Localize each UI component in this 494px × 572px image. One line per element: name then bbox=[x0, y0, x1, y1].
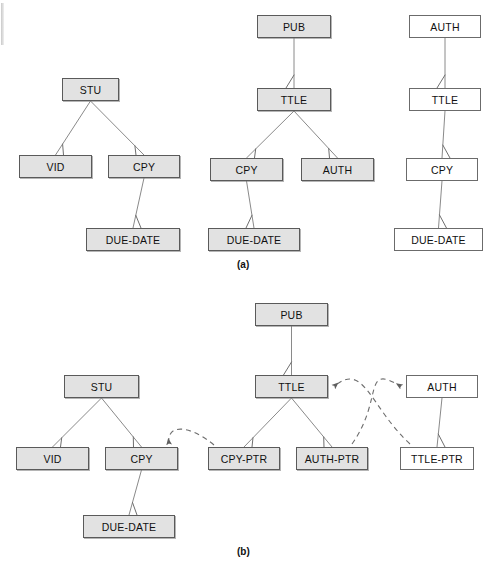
node-label: AUTH bbox=[430, 21, 459, 33]
node-label: AUTH bbox=[427, 381, 456, 393]
node-pub[interactable]: PUB bbox=[257, 15, 331, 38]
node-auth[interactable]: AUTH bbox=[301, 158, 374, 181]
node-label: CPY bbox=[431, 164, 453, 176]
node-label: AUTH bbox=[323, 164, 352, 176]
caption-part-a: (a) bbox=[237, 259, 249, 270]
node-label: DUE-DATE bbox=[227, 234, 282, 246]
caption-part-b: (b) bbox=[237, 546, 250, 557]
node-label: CPY bbox=[235, 164, 257, 176]
node-label: PUB bbox=[280, 309, 302, 321]
node-ttle[interactable]: TTLE bbox=[257, 88, 331, 111]
node-label: PUB bbox=[283, 21, 305, 33]
node-label: AUTH-PTR bbox=[305, 453, 360, 465]
node-auth-ptr[interactable]: AUTH-PTR bbox=[296, 447, 368, 470]
node-vid[interactable]: VID bbox=[16, 447, 89, 470]
node-auth[interactable]: AUTH bbox=[409, 15, 481, 38]
node-ttle-ptr[interactable]: TTLE-PTR bbox=[400, 447, 474, 470]
node-cpy-ptr[interactable]: CPY-PTR bbox=[208, 447, 280, 470]
page-edge-artifact bbox=[1, 3, 4, 45]
node-due-date[interactable]: DUE-DATE bbox=[208, 228, 300, 251]
node-label: DUE-DATE bbox=[411, 234, 466, 246]
node-label: TTLE bbox=[281, 94, 307, 106]
node-stu[interactable]: STU bbox=[62, 78, 119, 101]
node-pub[interactable]: PUB bbox=[255, 303, 328, 326]
node-ttle[interactable]: TTLE bbox=[409, 88, 481, 111]
node-label: STU bbox=[80, 84, 102, 96]
node-label: VID bbox=[43, 453, 61, 465]
node-cpy[interactable]: CPY bbox=[406, 158, 478, 181]
node-cpy[interactable]: CPY bbox=[210, 158, 283, 181]
node-cpy[interactable]: CPY bbox=[105, 447, 178, 470]
node-ttle[interactable]: TTLE bbox=[255, 375, 328, 398]
node-due-date[interactable]: DUE-DATE bbox=[83, 515, 175, 538]
node-label: TTLE bbox=[278, 381, 304, 393]
node-label: CPY bbox=[133, 161, 155, 173]
node-label: DUE-DATE bbox=[106, 234, 161, 246]
node-label: CPY-PTR bbox=[221, 453, 268, 465]
node-cpy[interactable]: CPY bbox=[108, 155, 180, 178]
node-due-date[interactable]: DUE-DATE bbox=[86, 228, 180, 251]
node-stu[interactable]: STU bbox=[64, 375, 139, 398]
node-due-date[interactable]: DUE-DATE bbox=[394, 228, 483, 251]
node-label: STU bbox=[91, 381, 113, 393]
node-auth[interactable]: AUTH bbox=[406, 375, 478, 398]
node-label: TTLE bbox=[432, 94, 458, 106]
figure-canvas: STU VID CPY DUE-DATE PUB TTLE CPY AUTH D… bbox=[0, 0, 494, 572]
node-vid[interactable]: VID bbox=[19, 155, 92, 178]
node-label: DUE-DATE bbox=[102, 521, 157, 533]
node-label: VID bbox=[46, 161, 64, 173]
node-label: CPY bbox=[130, 453, 152, 465]
node-label: TTLE-PTR bbox=[411, 453, 463, 465]
